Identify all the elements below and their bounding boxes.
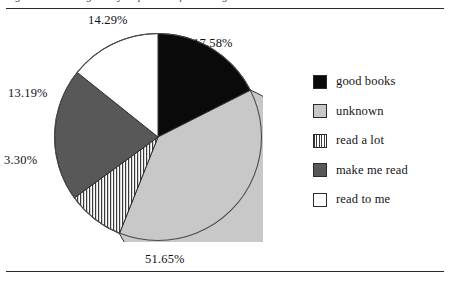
figure-caption-clipped: Figure 3. Reasons given by respondents f… — [0, 0, 450, 4]
legend-label-make-me-read: make me read — [336, 164, 408, 177]
pie-label-read-to-me: 14.29% — [88, 13, 128, 28]
legend-swatch-read-to-me — [313, 193, 327, 207]
legend-item-unknown: unknown — [313, 104, 443, 119]
pie-label-make-me-read: 13.19% — [8, 86, 48, 101]
legend-item-read-to-me: read to me — [313, 192, 443, 207]
legend-swatch-unknown — [313, 104, 327, 118]
figure-bottom-rule — [6, 271, 444, 272]
chart-legend: good books unknown read a lot make me re… — [313, 74, 443, 222]
pie-chart-graphic — [53, 32, 263, 242]
legend-item-read-a-lot: read a lot — [313, 133, 443, 148]
legend-item-good-books: good books — [313, 74, 443, 89]
pie-label-good-books: 17.58% — [193, 36, 233, 51]
legend-swatch-good-books — [313, 75, 327, 89]
legend-item-make-me-read: make me read — [313, 163, 443, 178]
legend-label-read-to-me: read to me — [336, 193, 390, 206]
pie-label-read-a-lot: 3.30% — [4, 153, 37, 168]
pie-label-unknown: 51.65% — [145, 252, 185, 267]
figure-top-rule — [6, 8, 444, 9]
pie-svg — [53, 32, 263, 242]
legend-label-read-a-lot: read a lot — [336, 134, 384, 147]
legend-label-good-books: good books — [336, 75, 396, 88]
pie-chart-figure: Figure 3. Reasons given by respondents f… — [0, 0, 450, 282]
legend-label-unknown: unknown — [336, 105, 384, 118]
figure-caption-text: Figure 3. Reasons given by respondents f… — [6, 0, 228, 2]
legend-swatch-make-me-read — [313, 163, 327, 177]
legend-swatch-read-a-lot — [313, 134, 327, 148]
